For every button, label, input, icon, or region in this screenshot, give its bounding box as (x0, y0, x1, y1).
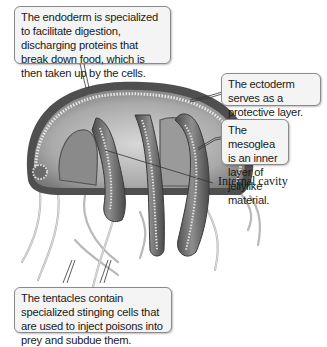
label-internal-cavity: Internal cavity (218, 174, 288, 189)
callout-ectoderm: The ectoderm serves as a protective laye… (221, 73, 321, 106)
callout-tentacles: The tentacles contain specialized stingi… (14, 287, 172, 333)
callout-endoderm-text: The endoderm is specialized to facilitat… (21, 11, 158, 79)
callout-mesoglea: The mesoglea is an inner layer of jellyl… (221, 119, 289, 165)
callout-ectoderm-text: The ectoderm serves as a protective laye… (228, 78, 303, 118)
tentacles (22, 190, 260, 292)
callout-endoderm: The endoderm is specialized to facilitat… (14, 6, 171, 64)
